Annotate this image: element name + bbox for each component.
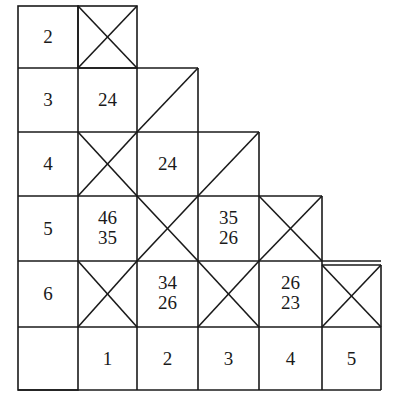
cell-r5c3-top: 35	[198, 208, 259, 228]
triangular-grid	[0, 0, 396, 398]
cell-r5c3-bottom: 26	[198, 228, 259, 248]
row-label-5: 5	[18, 219, 78, 239]
cell-r6c2-bottom: 26	[137, 293, 198, 313]
col-label-3: 3	[198, 349, 259, 369]
col-label-4: 4	[259, 349, 322, 369]
cell-r6c2-top: 34	[137, 273, 198, 293]
cell-r6c4-bottom: 23	[259, 293, 322, 313]
label-column	[18, 6, 78, 390]
cell-r6c4-top: 26	[259, 273, 322, 293]
cell-r5c1-bottom: 35	[78, 228, 137, 248]
row-label-3: 3	[18, 90, 78, 110]
col-label-5: 5	[322, 349, 381, 369]
row-label-2: 2	[18, 27, 78, 47]
cell-r4c2-value: 24	[137, 154, 198, 174]
row-label-4: 4	[18, 154, 78, 174]
row-label-6: 6	[18, 284, 78, 304]
col-label-2: 2	[137, 349, 198, 369]
diagonal-icon	[137, 68, 198, 132]
cell-r5c1-top: 46	[78, 208, 137, 228]
col-label-1: 1	[78, 349, 137, 369]
cell-r3c1-value: 24	[78, 90, 137, 110]
